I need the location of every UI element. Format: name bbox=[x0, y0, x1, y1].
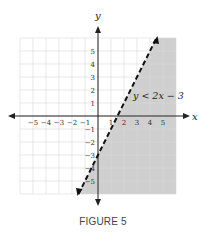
y-tick-label: −1 bbox=[85, 126, 95, 134]
x-tick-label: −3 bbox=[54, 119, 64, 127]
y-tick-label: −5 bbox=[85, 178, 95, 186]
x-tick-label: 1 bbox=[109, 119, 113, 127]
x-tick-label: 4 bbox=[148, 119, 153, 127]
y-tick-label: 1 bbox=[91, 100, 95, 108]
x-tick-label: −5 bbox=[28, 119, 38, 127]
x-axis-left-arrow-icon bbox=[8, 113, 15, 119]
x-tick-label: 5 bbox=[161, 119, 165, 127]
x-axis-right-arrow-icon bbox=[183, 113, 190, 119]
y-tick-label: 5 bbox=[91, 48, 95, 56]
y-axis-down-arrow-icon bbox=[95, 199, 101, 206]
inequality-graph: −5−4−3−2−11234554321−1−2−3−4−5 x y y < 2… bbox=[0, 0, 206, 234]
x-tick-label: −4 bbox=[41, 119, 52, 127]
y-tick-label: 3 bbox=[91, 74, 95, 82]
figure-caption: FIGURE 5 bbox=[0, 216, 206, 227]
x-axis-label: x bbox=[192, 111, 198, 122]
y-tick-label: −3 bbox=[85, 152, 95, 160]
y-tick-label: 2 bbox=[91, 87, 95, 95]
y-tick-label: 4 bbox=[91, 61, 96, 69]
y-tick-label: −2 bbox=[85, 139, 95, 147]
y-axis-up-arrow-icon bbox=[95, 26, 101, 33]
y-tick-label: −4 bbox=[85, 165, 96, 173]
inequality-label: y < 2x − 3 bbox=[132, 90, 184, 101]
boundary-arrow-top-icon bbox=[153, 36, 160, 44]
x-tick-label: 3 bbox=[135, 119, 139, 127]
x-tick-label: −2 bbox=[67, 119, 77, 127]
x-tick-label: 2 bbox=[122, 119, 126, 127]
y-axis-label: y bbox=[94, 10, 101, 21]
